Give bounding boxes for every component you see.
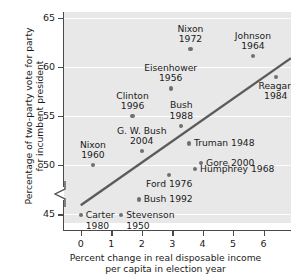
- data-point-label-line1: Nixon: [80, 139, 106, 150]
- y-axis-tick: [58, 67, 64, 68]
- x-axis-tick-label: 5: [223, 239, 243, 249]
- data-point-label: G. W. Bush2004: [117, 126, 167, 147]
- data-point-label-line1: Bush: [170, 99, 193, 110]
- data-point-label: Bush 1992: [144, 194, 193, 204]
- data-point-label-line2: 1950: [126, 220, 149, 231]
- data-point-label-line1: Carter: [86, 209, 115, 220]
- data-point-label: Carter1980: [86, 210, 115, 231]
- data-point-label: Stevenson1950: [126, 210, 174, 231]
- data-point-label: Clinton1996: [116, 91, 148, 112]
- data-point-label: Johnson1964: [235, 31, 271, 52]
- data-point-label-line1: G. W. Bush: [117, 125, 167, 136]
- data-point-label-line1: Reagan: [258, 80, 291, 91]
- axis-break-icon: [52, 181, 74, 207]
- x-axis-tick: [81, 230, 82, 236]
- data-point-label-line1: Humphrey 1968: [200, 163, 274, 174]
- x-axis-line: [63, 230, 291, 231]
- x-axis-title-line2: per capita in election year: [105, 263, 226, 274]
- data-point: [274, 75, 278, 79]
- x-axis-tick: [264, 230, 265, 236]
- data-point-label-line1: Clinton: [116, 90, 148, 101]
- data-point-label-line1: Stevenson: [126, 209, 174, 220]
- data-point-label: Truman 1948: [194, 138, 255, 148]
- data-point-label-line2: 1996: [121, 100, 144, 111]
- data-point: [79, 213, 83, 217]
- x-axis-tick: [111, 230, 112, 236]
- y-axis-title-line1: Percentage of two-party vote for party: [23, 28, 34, 205]
- data-point-label-line2: 1956: [159, 72, 182, 83]
- data-point-label: Reagan1984: [258, 81, 291, 102]
- y-axis-tick: [58, 214, 64, 215]
- data-point: [130, 114, 134, 118]
- data-point-label: Ford 1976: [146, 179, 192, 189]
- data-point-label-line2: 1988: [170, 110, 193, 121]
- data-point: [187, 141, 191, 145]
- data-point: [137, 197, 141, 201]
- data-point-label: Eisenhower1956: [144, 63, 197, 84]
- x-axis-title: Percent change in real disposable income…: [40, 252, 291, 274]
- x-axis-tick: [172, 230, 173, 236]
- data-point-label-line1: Bush 1992: [144, 193, 193, 204]
- x-axis-title-line1: Percent change in real disposable income: [70, 252, 262, 263]
- data-point-label-line2: 1964: [241, 40, 264, 51]
- data-point-label: Nixon1960: [80, 140, 106, 161]
- scatter-chart: Nixon1972Johnson1964Eisenhower1956Reagan…: [0, 0, 291, 276]
- data-point: [169, 86, 173, 90]
- y-axis-tick: [58, 116, 64, 117]
- data-point-label-line1: Eisenhower: [144, 62, 197, 73]
- x-axis-tick-label: 2: [132, 239, 152, 249]
- y-axis-title: Percentage of two-party vote for party f…: [23, 16, 45, 216]
- data-point-label: Humphrey 1968: [200, 164, 274, 174]
- data-point-label-line2: 1972: [179, 33, 202, 44]
- data-point-label-line2: 1984: [264, 90, 287, 101]
- x-axis-tick-label: 0: [71, 239, 91, 249]
- x-axis-tick-label: 3: [162, 239, 182, 249]
- y-axis-line: [63, 12, 64, 187]
- data-point: [188, 47, 192, 51]
- x-axis-tick-label: 1: [101, 239, 121, 249]
- data-point-label-line2: 1960: [81, 149, 104, 160]
- y-axis-tick: [58, 165, 64, 166]
- data-point-label-line1: Johnson: [235, 30, 271, 41]
- data-point-label-line2: 1980: [86, 220, 109, 231]
- x-axis-tick-label: 4: [193, 239, 213, 249]
- x-axis-tick-label: 6: [254, 239, 274, 249]
- data-point-label: Nixon1972: [177, 24, 203, 45]
- data-point-label-line1: Truman 1948: [194, 137, 255, 148]
- y-axis-tick: [58, 18, 64, 19]
- data-point-label-line2: 2004: [130, 135, 153, 146]
- data-point-label-line1: Ford 1976: [146, 178, 192, 189]
- x-axis-tick: [233, 230, 234, 236]
- data-point-label-line1: Nixon: [177, 23, 203, 34]
- y-axis-title-line2: for incumbent president: [34, 61, 45, 172]
- data-point-label: Bush1988: [170, 100, 193, 121]
- x-axis-tick: [142, 230, 143, 236]
- x-axis-tick: [203, 230, 204, 236]
